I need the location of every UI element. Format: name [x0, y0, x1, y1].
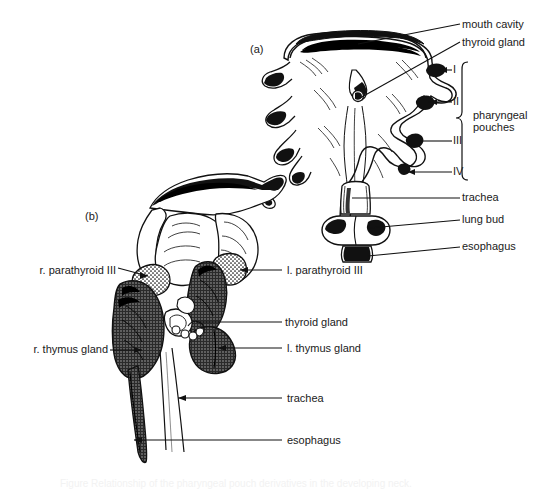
figure-caption: Figure Relationship of the pharyngeal po… — [60, 478, 480, 489]
label-pharyngeal-pouches: pharyngeal pouches — [473, 109, 527, 133]
label-pouch-2: II — [453, 95, 459, 107]
label-lung-bud: lung bud — [462, 213, 504, 225]
panel-a-drawing — [261, 24, 468, 262]
label-esophagus-a: esophagus — [462, 240, 516, 252]
label-thyroid-gland-b: thyroid gland — [285, 316, 348, 328]
label-esophagus-b: esophagus — [287, 434, 341, 446]
label-l-parathyroid-iii: l. parathyroid III — [287, 264, 363, 276]
panel-b-tag: (b) — [85, 210, 98, 222]
label-thyroid-gland-a: thyroid gland — [462, 36, 525, 48]
panel-b-drawing — [110, 174, 286, 463]
label-trachea-a: trachea — [462, 191, 499, 203]
label-trachea-b: trachea — [287, 392, 324, 404]
label-l-thymus-gland: l. thymus gland — [287, 342, 361, 354]
label-r-thymus-gland: r. thymus gland — [0, 343, 108, 355]
anatomical-figure: (a) (b) mouth cavity thyroid gland phary… — [0, 0, 548, 490]
label-pouch-4: IV — [453, 165, 463, 177]
panel-a-tag: (a) — [250, 43, 263, 55]
label-pouch-3: III — [453, 134, 462, 146]
label-pouch-1: I — [453, 63, 456, 75]
label-r-parathyroid-iii: r. parathyroid III — [0, 264, 116, 276]
label-mouth-cavity: mouth cavity — [462, 18, 524, 30]
